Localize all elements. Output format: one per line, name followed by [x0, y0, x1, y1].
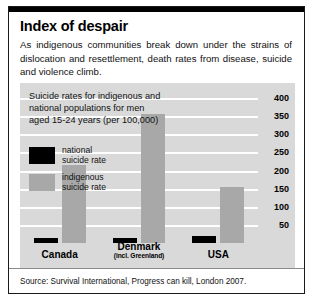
- y-tick-label-250: 250: [257, 148, 289, 157]
- source-divider: [9, 268, 304, 269]
- x-label-text: USA: [208, 249, 229, 260]
- legend-label-national: national suicide rate: [62, 145, 106, 166]
- gridline-300: [20, 134, 258, 136]
- y-axis: 50100150200250300350400: [255, 83, 295, 268]
- x-label-denmark: Denmark(incl. Greenland): [99, 242, 178, 260]
- legend-label-national-line2: suicide rate: [62, 155, 106, 165]
- source-note: Source: Survival International, Progress…: [20, 277, 246, 286]
- chart-legend: national suicide rate indigenous suicide…: [29, 145, 169, 199]
- x-label-text: Denmark: [118, 241, 161, 252]
- x-axis: CanadaDenmark(incl. Greenland)USA: [20, 242, 258, 268]
- legend-item-indigenous: indigenous suicide rate: [29, 172, 169, 193]
- legend-swatch-indigenous-icon: [29, 174, 55, 191]
- x-label-text: Canada: [42, 249, 78, 260]
- x-label-canada: Canada: [20, 250, 99, 261]
- y-tick-label-350: 350: [257, 112, 289, 121]
- legend-label-indigenous-line2: suicide rate: [62, 182, 106, 192]
- y-tick-label-150: 150: [257, 185, 289, 194]
- y-tick-label-50: 50: [257, 221, 289, 230]
- legend-label-indigenous: indigenous suicide rate: [62, 172, 106, 193]
- figure-panel: Index of despair As indigenous communiti…: [8, 6, 305, 294]
- chart-panel: 50100150200250300350400 Suicide rates fo…: [20, 83, 295, 268]
- page-title: Index of despair: [20, 19, 292, 35]
- legend-label-national-line1: national: [62, 145, 92, 155]
- x-label-usa: USA: [179, 250, 258, 261]
- chart-caption: Suicide rates for indigenous and nationa…: [29, 90, 161, 126]
- x-sublabel-text: (incl. Greenland): [99, 253, 178, 260]
- y-tick-label-400: 400: [257, 94, 289, 103]
- legend-item-national: national suicide rate: [29, 145, 169, 166]
- legend-swatch-national-icon: [29, 147, 55, 164]
- top-rule: [9, 7, 304, 12]
- y-tick-label-200: 200: [257, 167, 289, 176]
- y-tick-label-300: 300: [257, 130, 289, 139]
- y-tick-label-100: 100: [257, 203, 289, 212]
- legend-label-indigenous-line1: indigenous: [62, 172, 104, 182]
- standfirst-text: As indigenous communities break down und…: [20, 38, 292, 79]
- bar-usa-indigenous: [220, 187, 244, 243]
- headline-block: Index of despair As indigenous communiti…: [20, 19, 292, 79]
